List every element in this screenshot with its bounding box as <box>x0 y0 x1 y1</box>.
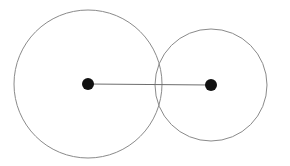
right-center-dot <box>205 79 217 91</box>
left-center-dot <box>82 78 94 90</box>
diagram-canvas: Two overlapping circles with centers joi… <box>0 0 290 166</box>
two-circles-figure: Two overlapping circles with centers joi… <box>0 0 290 166</box>
